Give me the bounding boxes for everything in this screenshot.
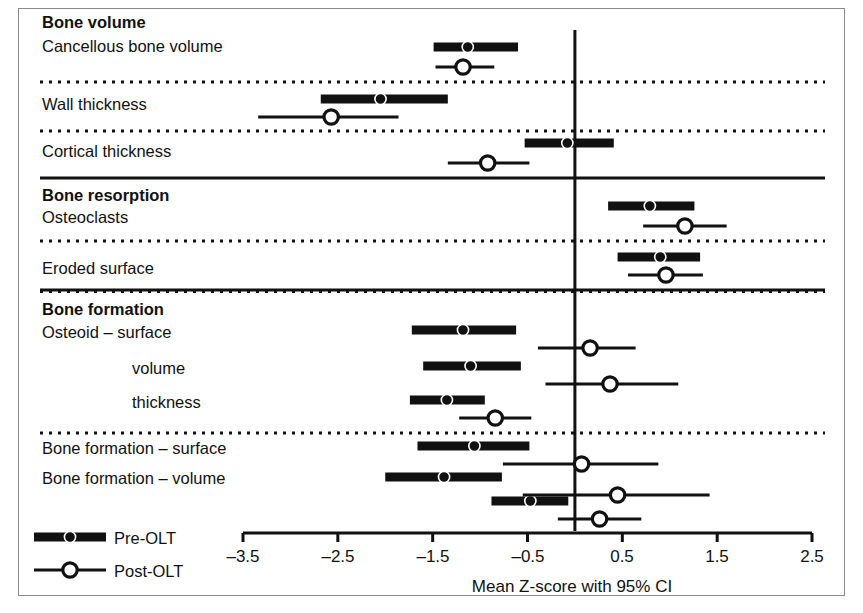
row-label-osteoid-volume: volume [132,360,185,377]
pre-olt-row-0 [434,41,518,52]
pre-olt-row-8 [417,440,529,451]
pre-olt-row-4 [618,251,701,262]
row-label-bone-formation-surface: Bone formation – surface [42,440,226,457]
group-label-bone-resorption: Bone resorption [42,187,169,204]
post-olt-row-8 [503,457,659,471]
post-olt-row-2 [448,156,530,170]
pre-olt-row-3 [608,200,694,211]
row-label-osteoid-thickness: thickness [132,394,201,411]
row-label-eroded-surface: Eroded surface [42,260,154,277]
pre-olt-row-6 [423,360,521,371]
xtick-label-6: 2.5 [800,548,824,565]
legend-swatch-pre-olt-marker [64,531,75,542]
post-olt-row-10 [558,512,641,526]
post-olt-row-0 [436,60,495,74]
pre-olt-row-5 [412,324,516,335]
group-label-bone-volume: Bone volume [42,14,146,31]
legend-swatch-post-olt-marker [63,563,77,577]
legend-label-post-olt: Post-OLT [114,563,183,580]
row-label-wall-thickness: Wall thickness [42,96,147,113]
forest-plot-figure: Bone volume Cancellous bone volume Wall … [0,0,863,613]
row-label-osteoid-surface: Osteoid – surface [42,324,171,341]
xtick-label-4: 0.5 [610,548,634,565]
post-olt-row-5 [538,341,636,355]
row-label-cancellous-bone-volume: Cancellous bone volume [42,38,223,55]
x-axis-title: Mean Z-score with 95% CI [472,578,672,595]
post-olt-row-7 [459,411,531,425]
post-olt-row-3 [643,219,726,233]
row-label-bone-formation-volume: Bone formation – volume [42,470,225,487]
pre-olt-row-1 [321,93,448,104]
xtick-label-1: –2.5 [321,548,354,565]
xtick-label-2: –1.5 [416,548,449,565]
row-label-osteoclasts: Osteoclasts [42,209,128,226]
xtick-label-0: –3.5 [226,548,259,565]
pre-olt-row-9 [385,471,502,482]
pre-olt-row-10 [491,495,568,506]
post-olt-row-4 [628,268,703,282]
pre-olt-row-2 [525,137,614,148]
group-label-bone-formation: Bone formation [42,301,164,318]
legend-label-pre-olt: Pre-OLT [114,530,176,547]
pre-olt-row-7 [410,394,485,405]
xtick-label-5: 1.5 [705,548,729,565]
post-olt-row-6 [546,377,679,391]
post-olt-row-1 [258,110,398,124]
row-label-cortical-thickness: Cortical thickness [42,143,171,160]
xtick-label-3: –0.5 [511,548,544,565]
